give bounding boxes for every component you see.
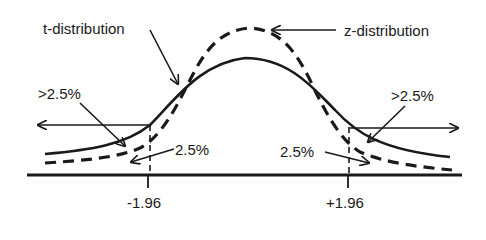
left-tail-t-label: >2.5% bbox=[38, 86, 81, 101]
right-gt-2-5-pointer bbox=[368, 106, 405, 142]
t-distribution-pointer bbox=[150, 30, 178, 84]
z-distribution-label: z-distribution bbox=[344, 23, 429, 38]
t-distribution-curve bbox=[45, 58, 450, 157]
left-2-5-pointer bbox=[131, 149, 174, 162]
left-critical-value: -1.96 bbox=[127, 195, 161, 210]
right-critical-value: +1.96 bbox=[326, 195, 364, 210]
right-tail-z-label: 2.5% bbox=[280, 144, 314, 159]
left-tail-z-label: 2.5% bbox=[175, 142, 209, 157]
right-tail-t-label: >2.5% bbox=[391, 88, 434, 103]
t-distribution-label: t-distribution bbox=[43, 21, 125, 36]
